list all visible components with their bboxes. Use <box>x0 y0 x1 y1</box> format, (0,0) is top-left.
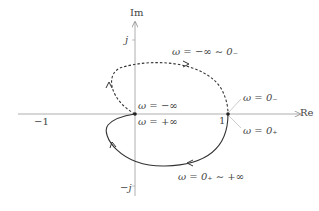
tick-label-neg-one: −1 <box>34 117 49 127</box>
imag-axis-label: Im <box>130 8 143 18</box>
arrow-upper-left-icon <box>106 82 112 88</box>
origin-minus-label: ω = −∞ <box>138 101 178 111</box>
tick-label-j: j <box>125 35 128 45</box>
origin-plus-label: ω = +∞ <box>138 117 178 127</box>
tick-label-one: 1 <box>219 116 225 126</box>
lower-branch-label: ω = 0₊ ∼ +∞ <box>178 172 244 182</box>
one-point <box>226 112 230 116</box>
upper-branch-label: ω = −∞ ∼ 0₋ <box>172 47 238 57</box>
leader-one-plus <box>229 116 241 128</box>
one-minus-label: ω = 0₋ <box>243 93 278 103</box>
origin-point <box>133 112 137 116</box>
real-axis-label: Re <box>300 108 313 118</box>
tick-label-neg-j: −j <box>120 183 131 193</box>
one-plus-label: ω = 0₊ <box>243 126 278 136</box>
leader-one-minus <box>229 99 241 112</box>
